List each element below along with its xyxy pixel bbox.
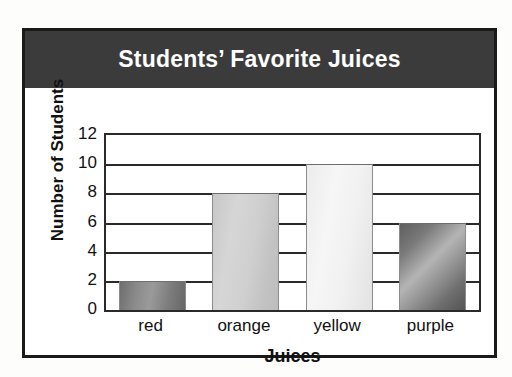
- bar-orange: [212, 193, 279, 310]
- bar-red: [119, 281, 186, 310]
- y-axis-tick-label: 10: [61, 154, 97, 171]
- y-axis-tick-label: 2: [61, 270, 97, 287]
- bars-layer: [106, 135, 479, 310]
- chart-title: Students’ Favorite Juices: [118, 46, 400, 73]
- y-axis-tick-label: 12: [61, 125, 97, 142]
- bar-purple: [399, 223, 466, 311]
- y-axis-tick-label: 8: [61, 183, 97, 200]
- chart-card: Students’ Favorite Juices Number of Stud…: [22, 28, 497, 358]
- y-axis-tick-label: 6: [61, 212, 97, 229]
- bar-yellow: [306, 164, 373, 310]
- y-axis-tick-labels: 024681012: [61, 133, 97, 312]
- plot-area: [104, 133, 481, 312]
- x-axis-label-red: red: [138, 316, 163, 336]
- x-axis-label-purple: purple: [407, 316, 454, 336]
- chart-body: Number of Students 024681012 redorangeye…: [25, 88, 494, 355]
- y-axis-tick-label: 0: [61, 300, 97, 317]
- x-axis-label-orange: orange: [217, 316, 270, 336]
- chart-title-band: Students’ Favorite Juices: [25, 31, 494, 88]
- x-axis-category-labels: redorangeyellowpurple: [104, 316, 481, 342]
- y-axis-tick-label: 4: [61, 241, 97, 258]
- x-axis-title: Juices: [104, 346, 481, 367]
- x-axis-label-yellow: yellow: [314, 316, 361, 336]
